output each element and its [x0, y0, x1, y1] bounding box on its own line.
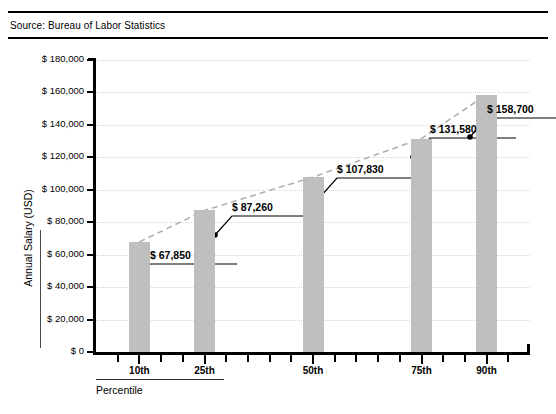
x-axis-tick-label: 10th: [129, 365, 150, 376]
x-axis-major-tick: [421, 355, 423, 364]
y-axis-tick: [87, 124, 94, 126]
x-axis-minor-tick: [182, 355, 184, 362]
y-axis-tick: [87, 156, 94, 158]
x-axis-minor-tick: [225, 355, 227, 362]
x-axis-major-tick: [486, 355, 488, 364]
y-axis-line: [93, 58, 96, 355]
y-axis-tick: [87, 351, 94, 353]
x-axis-major-tick: [312, 355, 314, 364]
x-axis-major-tick: [138, 355, 140, 364]
y-axis-tick-label: $ 20,000: [20, 313, 84, 324]
x-axis-minor-tick: [117, 355, 119, 362]
y-axis-tick: [87, 254, 94, 256]
x-axis-tick-label: 90th: [476, 365, 497, 376]
x-axis-minor-tick: [269, 355, 271, 362]
x-axis-minor-tick: [334, 355, 336, 362]
chart-figure: Source: Bureau of Labor Statistics $ 0$ …: [0, 0, 556, 414]
header-rule-bottom: [8, 37, 548, 39]
y-axis-tick: [87, 221, 94, 223]
x-axis-minor-tick: [160, 355, 162, 362]
bar-75th: [411, 139, 432, 352]
bar-10th: [129, 242, 150, 352]
x-axis-title-rule: [96, 379, 224, 380]
x-axis-tick-label: 25th: [194, 365, 215, 376]
y-axis-tick: [87, 189, 94, 191]
y-axis-tick: [87, 319, 94, 321]
value-label-25th: $ 87,260: [232, 201, 273, 213]
x-axis-major-tick: [204, 355, 206, 364]
y-axis-tick: [87, 286, 94, 288]
bar-50th: [303, 177, 324, 352]
header-rule-top: [8, 11, 548, 13]
x-axis-minor-tick: [507, 355, 509, 362]
x-axis-minor-tick: [377, 355, 379, 362]
y-axis-tick-label: $ 0: [20, 345, 84, 356]
y-axis-tick-label: $ 140,000: [20, 118, 84, 129]
x-axis-minor-tick: [247, 355, 249, 362]
gridline: [96, 157, 530, 158]
x-axis-minor-tick: [399, 355, 401, 362]
x-axis-tick-label: 50th: [303, 365, 324, 376]
x-axis-title: Percentile: [96, 384, 143, 396]
value-label-50th: $ 107,830: [337, 163, 384, 175]
y-axis-tick: [87, 59, 94, 61]
gridline: [96, 92, 530, 93]
y-axis-tick: [87, 91, 94, 93]
value-label-90th: $ 158,700: [487, 103, 534, 115]
x-axis-end-cap: [527, 344, 530, 355]
gridline: [96, 60, 530, 61]
value-label-10th: $ 67,850: [150, 249, 191, 261]
x-axis-tick-label: 75th: [411, 365, 432, 376]
x-axis-minor-tick: [464, 355, 466, 362]
y-axis-tick-label: $ 180,000: [20, 53, 84, 64]
bar-25th: [194, 210, 215, 352]
x-axis-minor-tick: [442, 355, 444, 362]
y-axis-title: Annual Salary (USD): [22, 168, 34, 308]
y-axis-tick-label: $ 160,000: [20, 85, 84, 96]
value-label-75th: $ 131,580: [430, 123, 477, 135]
bar-90th: [476, 95, 497, 352]
y-axis-tick-label: $ 120,000: [20, 150, 84, 161]
x-axis-minor-tick: [290, 355, 292, 362]
y-axis-title-rule: [40, 230, 41, 348]
x-axis-minor-tick: [355, 355, 357, 362]
